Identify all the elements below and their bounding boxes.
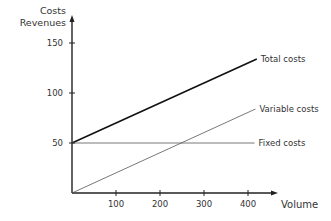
labels: 50100150100200300400CostsRevenuesVolumeT… xyxy=(20,5,320,210)
x-tick-label: 100 xyxy=(108,199,124,209)
x-tick-label: 200 xyxy=(152,199,168,209)
y-tick-label: 50 xyxy=(52,138,63,148)
x-tick-label: 400 xyxy=(240,199,256,209)
y-axis-label-costs: Costs xyxy=(40,5,66,16)
y-axis-label-revenues: Revenues xyxy=(20,17,66,28)
series-lines xyxy=(72,59,257,193)
x-axis-label: Volume xyxy=(281,199,318,210)
total-costs-line xyxy=(72,59,257,143)
y-tick-label: 150 xyxy=(47,38,63,48)
y-tick-label: 100 xyxy=(47,88,63,98)
axes xyxy=(69,15,278,196)
cost-volume-chart: 50100150100200300400CostsRevenuesVolumeT… xyxy=(0,0,331,221)
x-axis-arrow-icon xyxy=(271,191,278,196)
x-tick-label: 300 xyxy=(196,199,212,209)
variable-costs-label: Variable costs xyxy=(259,104,319,114)
total-costs-label: Total costs xyxy=(260,54,306,64)
y-axis-arrow-icon xyxy=(70,15,75,22)
fixed-costs-label: Fixed costs xyxy=(259,138,306,148)
variable-costs-line xyxy=(72,109,255,193)
